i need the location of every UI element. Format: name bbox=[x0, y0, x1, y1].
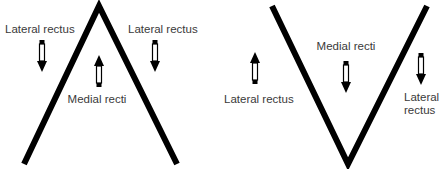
lateral-rectus-left-label: Lateral rectus bbox=[5, 23, 75, 35]
arrow-down-icon bbox=[37, 40, 47, 72]
medial-recti-label: Medial recti bbox=[317, 40, 376, 52]
lateral-rectus-right-label: Lateral rectus bbox=[128, 23, 198, 35]
medial-recti-label: Medial recti bbox=[68, 93, 127, 105]
arrow-up-icon bbox=[94, 55, 104, 87]
arrow-up-icon bbox=[250, 52, 260, 84]
lateral-rectus-left-label: Lateral rectus bbox=[224, 93, 294, 105]
arrow-down-icon bbox=[150, 40, 160, 72]
lateral-rectus-right-label-line2: rectus bbox=[404, 104, 436, 116]
v-pattern-figure: Lateral rectus Medial recti Lateral rect… bbox=[224, 6, 439, 164]
arrow-down-icon bbox=[341, 61, 351, 93]
diagram-canvas: Lateral rectus Lateral rectus Medial rec… bbox=[0, 0, 441, 169]
arrow-down-icon bbox=[416, 53, 426, 85]
lateral-rectus-right-label-line1: Lateral bbox=[404, 91, 439, 103]
a-pattern-figure: Lateral rectus Lateral rectus Medial rec… bbox=[5, 6, 198, 164]
